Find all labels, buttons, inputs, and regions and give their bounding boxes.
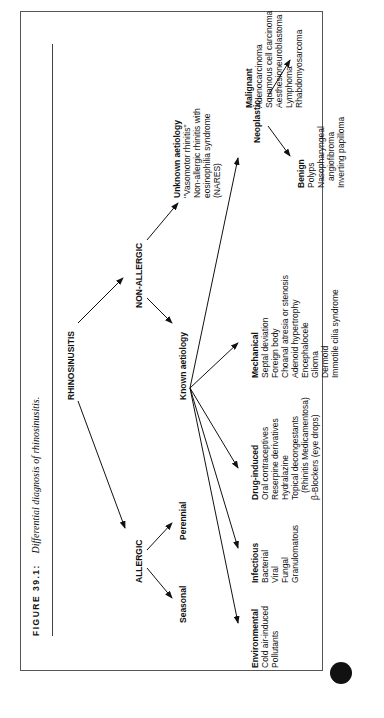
- drug-item: (Rhinitis Medicamentosa): [300, 397, 310, 500]
- rotated-figure-page: FIGURE 39.1: Differential diagnosis of r…: [0, 0, 384, 718]
- infectious-item: Bacterial: [260, 525, 270, 583]
- unknown-aetiology-group: Unknown aetiology "Vasomotor rhinitis" N…: [172, 108, 222, 198]
- mechanical-group: Mechanical Septal deviation Foreign body…: [250, 275, 340, 378]
- mechanical-item: Dermoid: [320, 275, 330, 378]
- benign-group: Benign Polyps Nasopharyngeal angiofibrom…: [296, 117, 346, 188]
- benign-item: Nasopharyngeal: [316, 117, 326, 188]
- mechanical-item: Choanal atresia or stenosis: [280, 275, 290, 378]
- environmental-item: Cold air-induced: [260, 606, 270, 668]
- infectious-item: Viral: [270, 525, 280, 583]
- benign-item: Inverting papilloma: [336, 117, 346, 188]
- mechanical-heading: Mechanical: [250, 275, 260, 378]
- unknown-aetiology-heading: Unknown aetiology: [172, 108, 182, 198]
- root-rhinosinusitis: RHINOSINUSITIS: [66, 331, 76, 400]
- drug-item: Oral contraceptives: [260, 397, 270, 500]
- allergic-perennial: Perennial: [178, 502, 188, 540]
- environmental-heading: Environmental: [250, 606, 260, 668]
- mechanical-item: Encephalocele: [300, 275, 310, 378]
- mechanical-item: Immotile cilia syndrome: [330, 275, 340, 378]
- drug-induced-heading: Drug-induced: [250, 397, 260, 500]
- branch-non-allergic: NON-ALLERGIC: [134, 243, 144, 308]
- allergic-seasonal: Seasonal: [178, 586, 188, 623]
- infectious-item: Granulomatous: [290, 525, 300, 583]
- drug-item: Topical decongestants: [290, 397, 300, 500]
- drug-induced-group: Drug-induced Oral contraceptives Reserpi…: [250, 397, 320, 500]
- drug-item: β-Blockers (eye drops): [310, 397, 320, 500]
- environmental-group: Environmental Cold air-induced Pollutant…: [250, 606, 280, 668]
- mechanical-item: Foreign body: [270, 275, 280, 378]
- drug-item: Hydralazine: [280, 397, 290, 500]
- mechanical-item: Adenoid hypertrophy: [290, 275, 300, 378]
- environmental-item: Pollutants: [270, 606, 280, 668]
- malignant-item: Adenocarcinoma: [254, 11, 264, 108]
- branch-allergic: ALLERGIC: [134, 540, 144, 583]
- malignant-item: Lymphoma: [284, 11, 294, 108]
- infectious-item: Fungal: [280, 525, 290, 583]
- drug-item: Reserpine derivatives: [270, 397, 280, 500]
- malignant-item: Rhabdomyosarcoma: [294, 11, 304, 108]
- malignant-group: Malignant Adenocarcinoma Squamous cell c…: [244, 11, 304, 108]
- malignant-heading: Malignant: [244, 11, 254, 108]
- mechanical-item: Septal deviation: [260, 275, 270, 378]
- infectious-group: Infectious Bacterial Viral Fungal Granul…: [250, 525, 300, 583]
- page-tab-marker: [330, 662, 352, 684]
- known-aetiology-heading: Known aetiology: [178, 332, 188, 400]
- unknown-item: "Vasomotor rhinitis": [182, 108, 192, 198]
- benign-item: Polyps: [306, 117, 316, 188]
- unknown-item: eosinophilia syndrome: [202, 108, 212, 198]
- mechanical-item: Glioma: [310, 275, 320, 378]
- unknown-item: (NARES): [212, 108, 222, 198]
- unknown-item: Non-allergic rhinitis with: [192, 108, 202, 198]
- benign-heading: Benign: [296, 117, 306, 188]
- malignant-item: Aesthesioneuroblastoma: [274, 11, 284, 108]
- malignant-item: Squamous cell carcinoma: [264, 11, 274, 108]
- infectious-heading: Infectious: [250, 525, 260, 583]
- benign-item: angiofibroma: [326, 117, 336, 188]
